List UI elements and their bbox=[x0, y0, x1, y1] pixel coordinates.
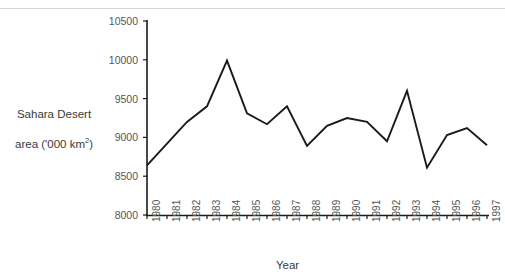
plot-svg bbox=[0, 0, 505, 279]
x-axis-tick-label: 1982 bbox=[191, 200, 202, 222]
x-axis-tick-label: 1983 bbox=[211, 200, 222, 222]
y-axis-tick-label: 8000 bbox=[104, 209, 138, 221]
x-axis-tick-label: 1990 bbox=[351, 200, 362, 222]
y-axis-tick-label: 8500 bbox=[104, 170, 138, 182]
axis-lines bbox=[146, 20, 489, 216]
y-axis-tick-label: 9000 bbox=[104, 131, 138, 143]
data-series-line bbox=[147, 61, 487, 168]
x-axis-tick-label: 1985 bbox=[251, 200, 262, 222]
y-axis-tick-label: 9500 bbox=[104, 93, 138, 105]
x-axis-title: Year bbox=[0, 259, 505, 271]
plot-area: 80008500900095001000010500 1980198119821… bbox=[0, 0, 505, 279]
x-axis-tick-label: 1995 bbox=[451, 200, 462, 222]
x-axis-tick-label: 1980 bbox=[151, 200, 162, 222]
y-axis-tick-label: 10000 bbox=[104, 54, 138, 66]
x-axis-tick-label: 1997 bbox=[491, 200, 502, 222]
x-axis-tick-label: 1989 bbox=[331, 200, 342, 222]
x-axis-tick-label: 1984 bbox=[231, 200, 242, 222]
x-axis-tick-label: 1988 bbox=[311, 200, 322, 222]
x-axis-tick-label: 1991 bbox=[371, 200, 382, 222]
x-axis-tick-label: 1992 bbox=[391, 200, 402, 222]
x-axis-tick-label: 1996 bbox=[471, 200, 482, 222]
x-axis-tick-label: 1981 bbox=[171, 200, 182, 222]
x-axis-tick-label: 1993 bbox=[411, 200, 422, 222]
x-axis-tick-label: 1986 bbox=[271, 200, 282, 222]
sahara-desert-area-line-chart: Sahara Desert area ('000 km2) 8000850090… bbox=[0, 0, 505, 279]
x-axis-tick-label: 1994 bbox=[431, 200, 442, 222]
x-axis-tick-label: 1987 bbox=[291, 200, 302, 222]
y-axis-tick-label: 10500 bbox=[104, 15, 138, 27]
